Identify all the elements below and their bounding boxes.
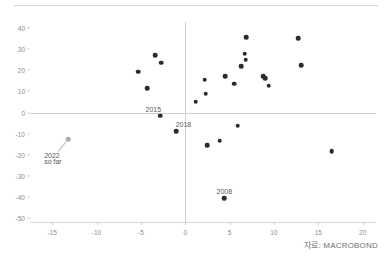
data-point[interactable] [202, 78, 207, 83]
data-point[interactable] [263, 76, 268, 81]
y-axis-tick-label: 0 [21, 109, 25, 116]
x-axis-tick-mark [97, 222, 98, 225]
data-point[interactable] [244, 35, 249, 40]
y-axis-tick-mark [27, 196, 30, 197]
annotation-2018: 2018 [176, 121, 192, 129]
x-axis-baseline [30, 222, 376, 223]
y-axis-tick-label: 20 [18, 67, 25, 74]
x-axis-tick-mark [52, 222, 53, 225]
y-axis-tick-mark [27, 175, 30, 176]
y-axis-tick-label: -20 [16, 151, 25, 158]
data-point[interactable] [243, 58, 248, 63]
annotation-so-far: so far [44, 158, 62, 166]
data-point[interactable] [218, 138, 223, 143]
data-point[interactable] [296, 36, 301, 41]
y-axis-tick-mark [27, 91, 30, 92]
data-point-2022-so-far[interactable] [66, 137, 71, 142]
y-axis-tick-label: -50 [16, 214, 25, 221]
data-point-2008[interactable] [222, 196, 227, 201]
data-point-2015[interactable] [158, 114, 163, 119]
data-point[interactable] [153, 53, 158, 58]
x-axis-tick-mark [274, 222, 275, 225]
data-point[interactable] [194, 99, 199, 104]
annotation-2015: 2015 [146, 106, 162, 114]
y-axis-tick-mark [27, 112, 30, 113]
clipped-header-text [60, 0, 260, 3]
y-axis-tick-label: 10 [18, 88, 25, 95]
data-point[interactable] [136, 69, 141, 74]
y-axis-tick-label: 40 [18, 25, 25, 32]
x-axis-tick-label: -15 [47, 229, 56, 236]
data-point-2018[interactable] [174, 129, 179, 134]
x-axis-tick-mark [318, 222, 319, 225]
scatter-plot-area: 403020100-10-20-30-40-50-15-10-505101520… [30, 22, 376, 222]
x-axis-tick-label: 10 [270, 229, 277, 236]
y-axis-tick-label: -40 [16, 193, 25, 200]
data-point[interactable] [205, 143, 210, 148]
y-axis-tick-label: -30 [16, 172, 25, 179]
y-axis-tick-mark [27, 28, 30, 29]
y-axis-tick-mark [27, 133, 30, 134]
chart-figure: 403020100-10-20-30-40-50-15-10-505101520… [0, 0, 392, 257]
data-point[interactable] [266, 83, 271, 88]
y-axis-tick-label: -10 [16, 130, 25, 137]
annotation-2008: 2008 [216, 188, 232, 196]
data-point[interactable] [299, 63, 304, 68]
y-axis-tick-mark [27, 154, 30, 155]
zero-line-horizontal [30, 113, 376, 114]
x-axis-tick-label: -5 [138, 229, 144, 236]
x-axis-tick-mark [141, 222, 142, 225]
x-axis-tick-label: 15 [315, 229, 322, 236]
data-point[interactable] [159, 60, 164, 65]
x-axis-tick-mark [363, 222, 364, 225]
data-point[interactable] [223, 74, 228, 79]
x-axis-tick-label: 0 [183, 229, 187, 236]
data-point[interactable] [232, 82, 237, 87]
y-axis-tick-label: 30 [18, 46, 25, 53]
x-axis-tick-label: 5 [228, 229, 232, 236]
data-point[interactable] [235, 123, 240, 128]
data-point[interactable] [203, 91, 208, 96]
x-axis-tick-label: -10 [92, 229, 101, 236]
data-point[interactable] [242, 51, 247, 56]
data-point[interactable] [329, 149, 334, 154]
data-point[interactable] [239, 64, 244, 69]
y-axis-tick-mark [27, 217, 30, 218]
data-point[interactable] [145, 86, 150, 91]
source-attribution: 자료: MACROBOND [304, 239, 378, 250]
annotation-leader-line [58, 142, 66, 152]
y-axis-tick-mark [27, 49, 30, 50]
x-axis-tick-mark [230, 222, 231, 225]
x-axis-tick-mark [185, 222, 186, 225]
y-axis-tick-mark [27, 70, 30, 71]
x-axis-tick-label: 20 [359, 229, 366, 236]
header-divider [14, 5, 378, 6]
